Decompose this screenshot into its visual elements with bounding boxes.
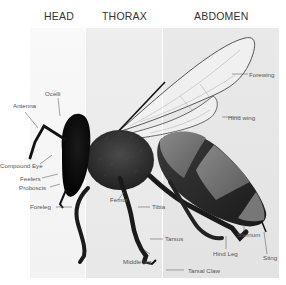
sting [262,222,266,232]
middle-leg [120,178,146,262]
label-tibia: Tibia [152,203,165,210]
label-forewing: Forewing [249,71,274,78]
label-proboscis: Proboscis [19,184,46,191]
foreleg [76,188,88,262]
proboscis [60,190,66,208]
bee-illustration [0,0,286,285]
head [62,114,91,197]
label-ocelli: Ocelli [45,90,60,97]
label-hind-leg: Hind Leg [213,250,238,257]
label-femur: Femur [110,196,128,203]
label-sting: Sting [263,254,277,261]
label-hind-wing: Hind wing [228,114,255,121]
label-middle-leg: Middle leg [123,258,151,265]
label-foreleg: Foreleg [30,203,51,210]
label-tarsus: Tarsus [165,235,183,242]
label-feelers: Feelers [20,175,41,182]
label-tarsal-claw: Tarsal Claw [188,267,220,274]
label-compound-eye: Compound Eye [0,162,43,169]
label-antenna: Antenna [13,102,36,109]
label-sternum: Sternum [237,231,260,238]
antenna [30,126,66,158]
